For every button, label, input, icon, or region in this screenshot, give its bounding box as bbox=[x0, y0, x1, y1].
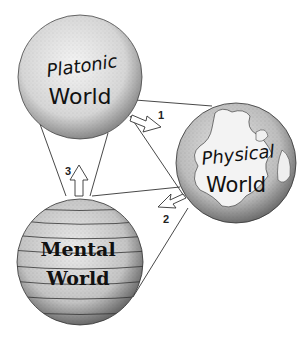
mental-label-line2: World bbox=[46, 267, 110, 289]
platonic-label-line2: World bbox=[48, 84, 111, 109]
mental-label-line1: Mental bbox=[40, 238, 115, 260]
arrow-2-physical-to-mental: 2 bbox=[158, 194, 186, 225]
mental-world-sphere: Mental World bbox=[10, 199, 150, 325]
physical-label-line2: World bbox=[206, 173, 266, 197]
platonic-world-sphere: Platonic World bbox=[18, 15, 142, 139]
three-worlds-diagram: Platonic World Physical World Mental Wor… bbox=[0, 0, 308, 340]
physical-world-sphere: Physical World bbox=[176, 103, 296, 223]
arrow-2-label: 2 bbox=[163, 213, 169, 225]
arrow-3-label: 3 bbox=[65, 165, 71, 177]
arrow-3-mental-to-platonic: 3 bbox=[65, 165, 88, 196]
arrow-1-platonic-to-physical: 1 bbox=[130, 109, 164, 132]
arrow-1-label: 1 bbox=[158, 109, 164, 121]
